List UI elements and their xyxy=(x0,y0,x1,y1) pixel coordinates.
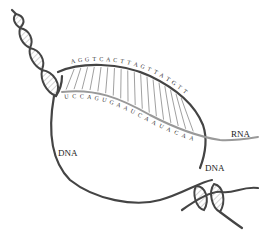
template-strand-bases: AGGTCACTTAGTTATGTT xyxy=(70,56,188,95)
base-pair-rung xyxy=(98,67,101,91)
template-base: C xyxy=(99,56,103,62)
rna-base: C xyxy=(72,93,76,99)
rna-base: A xyxy=(151,119,158,127)
base-pair-rung xyxy=(134,72,135,105)
rna-strand xyxy=(62,91,258,140)
rna-base: A xyxy=(166,126,173,133)
base-pair-rung xyxy=(170,90,178,126)
base-pair-rung xyxy=(90,67,94,90)
base-pair-rung xyxy=(153,80,156,117)
base-pair-rung xyxy=(74,68,81,89)
template-base: G xyxy=(85,56,90,62)
dna-template-strand xyxy=(58,65,206,168)
rna-base: A xyxy=(87,94,93,101)
rna-base: U xyxy=(64,93,70,99)
rna-base: G xyxy=(109,99,116,106)
dna-label-right: DNA xyxy=(205,163,225,173)
rna-label: RNA xyxy=(231,129,251,139)
template-base: T xyxy=(153,69,159,76)
template-base: A xyxy=(159,72,166,80)
template-base: T xyxy=(146,66,152,73)
base-pair-rung xyxy=(141,74,143,109)
rna-base: C xyxy=(80,93,84,99)
base-pair-rung xyxy=(181,98,193,131)
template-base: T xyxy=(120,58,125,65)
template-base: A xyxy=(70,58,76,65)
dna-helix-upstream xyxy=(12,10,62,96)
base-pair-rung xyxy=(82,67,88,89)
base-pair-rung xyxy=(165,86,171,123)
rna-strand-bases: UCCAGUGAAUCAAUACAA xyxy=(64,93,195,142)
template-base: G xyxy=(170,79,178,87)
template-base: G xyxy=(78,57,84,64)
template-base: T xyxy=(182,88,189,95)
rna-base: U xyxy=(130,108,137,116)
rna-base: U xyxy=(158,123,165,131)
base-pair-rung xyxy=(159,83,164,120)
base-pair-rung xyxy=(106,67,108,93)
rna-base: C xyxy=(173,129,179,136)
template-base: G xyxy=(140,63,147,70)
template-base: T xyxy=(165,75,172,82)
rna-base: A xyxy=(116,101,123,108)
rna-base: C xyxy=(137,112,143,119)
rna-base: A xyxy=(123,104,130,112)
base-pair-rung xyxy=(66,69,74,90)
dna-label-left: DNA xyxy=(58,148,78,158)
base-pair-rung xyxy=(113,68,114,96)
template-base: A xyxy=(133,61,139,68)
template-base: T xyxy=(127,59,132,66)
rna-base: U xyxy=(101,97,107,104)
template-base: C xyxy=(113,57,118,63)
template-base: A xyxy=(106,56,111,62)
base-pair-rungs xyxy=(66,67,193,131)
rna-base: A xyxy=(189,135,196,142)
rna-base: A xyxy=(181,132,188,139)
rna-base: G xyxy=(94,95,100,102)
rna-base: A xyxy=(143,115,150,123)
base-pair-rung xyxy=(147,77,149,113)
template-base: T xyxy=(176,83,183,90)
dna-helix-downstream xyxy=(182,184,258,228)
template-base: T xyxy=(92,56,96,62)
transcription-diagram: AGGTCACTTAGTTATGTT UCCAGUGAAUCAAUACAA RN… xyxy=(0,0,264,238)
